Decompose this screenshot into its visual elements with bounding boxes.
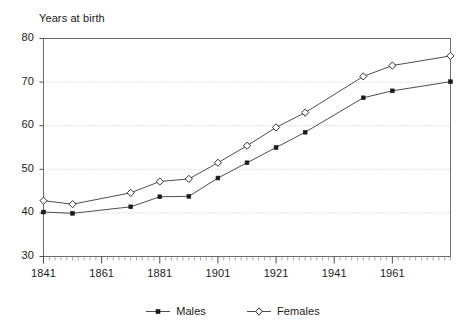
males-marker-icon [145, 306, 171, 317]
data-point-males-1871 [129, 205, 133, 209]
x-tick-label-1901: 1901 [198, 267, 238, 279]
data-point-females-1901 [214, 159, 221, 166]
x-tick-label-1921: 1921 [256, 267, 296, 279]
data-point-males-1901 [216, 176, 220, 180]
legend-entry-males[interactable]: Males [145, 305, 206, 317]
y-tick-label-40: 40 [8, 205, 34, 217]
data-point-females-1931 [302, 109, 309, 116]
x-tick-label-1961: 1961 [372, 267, 412, 279]
data-point-females-1951 [360, 73, 367, 80]
legend-entry-females[interactable]: Females [246, 305, 320, 317]
legend-label-males: Males [176, 305, 206, 317]
data-point-males-1891 [187, 194, 191, 198]
series-line-females [44, 56, 451, 204]
x-tick-label-1841: 1841 [24, 267, 64, 279]
data-point-males-1911 [245, 161, 249, 165]
data-point-females-1911 [243, 142, 250, 149]
y-tick-label-80: 80 [8, 31, 34, 43]
data-point-females-1961 [389, 62, 396, 69]
legend-label-females: Females [277, 305, 320, 317]
females-marker-icon [246, 306, 272, 317]
y-tick-label-60: 60 [8, 118, 34, 130]
data-point-males-1921 [274, 146, 278, 150]
life-expectancy-line-chart: Years at birth Males Females 30405060708… [0, 0, 465, 333]
data-point-females-1921 [272, 124, 279, 131]
x-tick-label-1861: 1861 [82, 267, 122, 279]
y-tick-label-50: 50 [8, 162, 34, 174]
data-point-males-1951 [361, 96, 365, 100]
data-point-females-1851 [69, 201, 76, 208]
data-point-males-1931 [303, 130, 307, 134]
x-tick-label-1881: 1881 [140, 267, 180, 279]
x-tick-label-1941: 1941 [314, 267, 354, 279]
data-point-males-1851 [71, 211, 75, 215]
data-point-females-1981 [447, 52, 454, 59]
data-point-females-1891 [185, 175, 192, 182]
y-tick-label-30: 30 [8, 249, 34, 261]
data-point-males-1961 [390, 89, 394, 93]
data-point-males-1981 [449, 80, 453, 84]
plot-area [0, 0, 465, 300]
chart-legend: Males Females [0, 300, 465, 322]
data-point-males-1841 [42, 210, 46, 214]
data-point-females-1841 [40, 197, 47, 204]
data-point-females-1871 [127, 189, 134, 196]
data-point-females-1881 [156, 178, 163, 185]
y-tick-label-70: 70 [8, 75, 34, 87]
data-point-males-1881 [158, 195, 162, 199]
y-axis-title: Years at birth [39, 12, 105, 24]
